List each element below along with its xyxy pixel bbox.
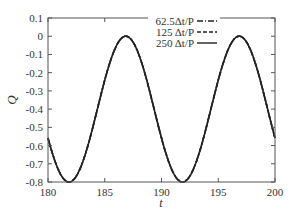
series-line [48, 36, 275, 182]
y-tick-label: -0.6 [26, 140, 44, 152]
x-axis-label: t [159, 196, 163, 210]
x-tick-label: 185 [97, 186, 114, 198]
y-axis-label: Q [4, 95, 19, 105]
y-tick-label: -0.5 [26, 121, 44, 133]
y-tick-label: 0.1 [29, 12, 43, 24]
x-tick-label: 195 [210, 186, 227, 198]
y-tick-label: 0 [38, 30, 44, 42]
y-tick-label: -0.1 [26, 48, 43, 60]
series-line [48, 36, 275, 182]
y-tick-label: -0.7 [26, 158, 44, 170]
plot-curves [48, 36, 275, 182]
legend-label: 250 Δt/P [156, 37, 194, 49]
series-line [48, 36, 275, 182]
chart: 180185190195200 0.10-0.1-0.2-0.3-0.4-0.5… [0, 0, 293, 215]
x-tick-label: 200 [267, 186, 284, 198]
y-tick-label: -0.4 [26, 103, 44, 115]
y-tick-label: -0.8 [26, 176, 44, 188]
legend: 62.5Δt/P125 Δt/P250 Δt/P [148, 15, 220, 49]
y-tick-label: -0.3 [26, 85, 44, 97]
y-tick-label: -0.2 [26, 67, 43, 79]
line-chart-svg: 180185190195200 0.10-0.1-0.2-0.3-0.4-0.5… [0, 0, 293, 215]
